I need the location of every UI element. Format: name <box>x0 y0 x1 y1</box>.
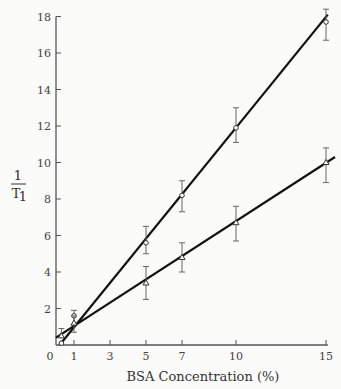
y-label-subscript: 1 <box>19 189 27 204</box>
data-point-circle <box>234 126 239 131</box>
data-point-circle <box>180 193 185 198</box>
x-tick-label: 7 <box>179 350 186 363</box>
y-tick-label: 6 <box>44 230 51 243</box>
y-tick-label: 10 <box>37 157 51 170</box>
x-tick-label: 10 <box>229 350 243 363</box>
y-tick-label: 4 <box>44 266 51 279</box>
fit-line <box>56 157 335 338</box>
y-tick-label: 14 <box>37 84 51 97</box>
x-tick-label: 3 <box>107 350 114 363</box>
data-point-circle <box>144 241 149 246</box>
x-axis-label: BSA Concentration (%) <box>127 369 280 384</box>
y-tick-label: 12 <box>37 120 51 133</box>
data-point-circle <box>59 341 64 346</box>
y-tick-label: 16 <box>37 47 51 60</box>
x-tick-label: 5 <box>143 350 150 363</box>
x-tick-label: 0 <box>47 350 54 363</box>
y-tick-label: 8 <box>44 193 51 206</box>
plot-area: 24681012141618013571015BSA Concentration… <box>0 0 341 389</box>
y-label-numerator: 1 <box>14 168 22 183</box>
chart: 24681012141618013571015BSA Concentration… <box>0 0 341 389</box>
data-point-circle <box>324 20 329 25</box>
x-tick-label: 15 <box>319 350 333 363</box>
x-tick-label: 1 <box>71 350 78 363</box>
data-point-triangle <box>71 320 77 325</box>
fit-line <box>60 15 328 345</box>
y-tick-label: 2 <box>44 303 51 316</box>
y-tick-label: 18 <box>37 11 51 24</box>
